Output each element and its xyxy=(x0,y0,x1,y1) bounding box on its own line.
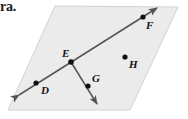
point-h-label: H xyxy=(128,58,138,70)
diagram-canvas: ra. D E F G H xyxy=(0,0,188,119)
point-h-dot xyxy=(122,54,127,59)
point-e-dot xyxy=(68,59,74,65)
point-d-label: D xyxy=(40,84,49,96)
point-g-dot xyxy=(85,83,90,88)
point-f-dot xyxy=(140,14,145,19)
geometry-diagram: D E F G H xyxy=(0,0,188,119)
point-e-label: E xyxy=(61,47,69,59)
point-d-dot xyxy=(33,80,38,85)
point-f-label: F xyxy=(145,19,154,31)
point-g-label: G xyxy=(92,72,100,84)
